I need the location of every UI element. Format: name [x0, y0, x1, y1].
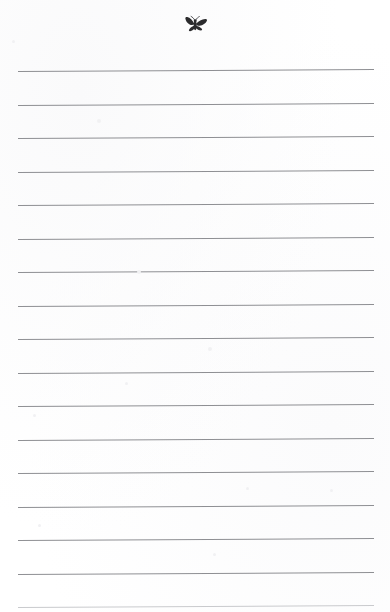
rule-line [18, 103, 374, 106]
rule-line [18, 404, 374, 407]
rule-line [18, 471, 374, 474]
rule-line [18, 438, 374, 441]
rule-line [18, 237, 374, 240]
rule-line [18, 371, 374, 374]
ruled-lines [0, 0, 390, 612]
rule-line [18, 203, 374, 206]
rule-line [18, 572, 374, 575]
notepad-page [0, 0, 390, 612]
rule-line [18, 170, 374, 173]
rule-line [18, 69, 374, 72]
rule-line [18, 337, 374, 340]
rule-line [18, 538, 374, 541]
rule-line [18, 605, 374, 608]
rule-line [18, 304, 374, 307]
rule-line [18, 505, 374, 508]
rule-line [18, 136, 374, 139]
rule-line [18, 270, 374, 273]
